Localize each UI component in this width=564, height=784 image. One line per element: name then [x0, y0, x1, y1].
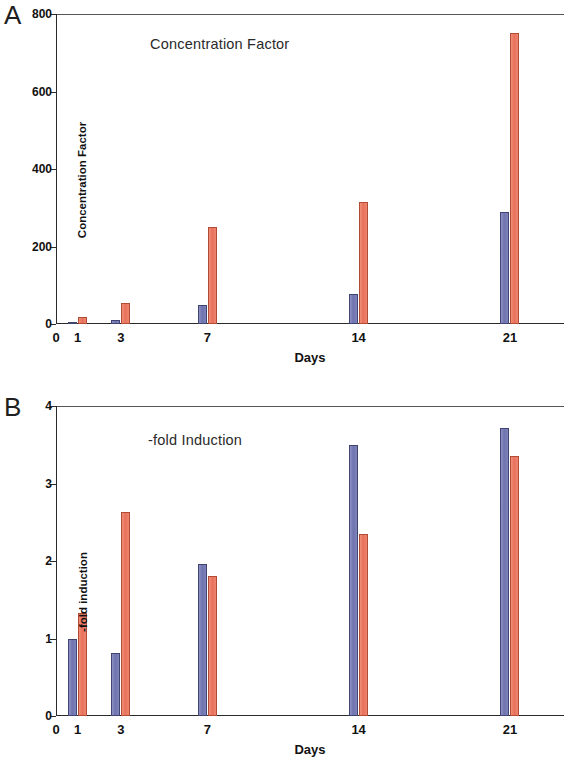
x-tick-label: 14: [351, 722, 365, 737]
bar-red-day-14: [359, 534, 368, 716]
x-tick-label: 7: [204, 330, 211, 345]
panel-b-plot-area: 01234 -fold Induction -fold induction: [56, 406, 564, 716]
bar-blue-day-14: [349, 294, 358, 324]
y-tick-label: 4: [45, 399, 52, 413]
bar-blue-day-21: [500, 212, 509, 324]
x-tick-label: 1: [74, 330, 81, 345]
x-tick-label: 14: [351, 330, 365, 345]
bar-red-day-7: [208, 576, 217, 716]
y-tick-label: 0: [45, 317, 52, 331]
bar-red-day-21: [510, 33, 519, 324]
bar-blue-day-7: [198, 305, 207, 324]
bar-red-day-21: [510, 456, 519, 716]
y-tick-label: 1: [45, 632, 52, 646]
panel-b-letter: B: [4, 394, 22, 420]
x-tick-label: 21: [503, 722, 517, 737]
panel-a-plot-area: 0200400600800 Concentration Factor Conce…: [56, 14, 564, 324]
x-tick-label: 21: [503, 330, 517, 345]
x-tick-label: 0: [52, 330, 59, 345]
panel-a-y-axis-title: Concentration Factor: [76, 110, 88, 250]
bar-blue-day-14: [349, 445, 358, 716]
x-tick-label: 3: [117, 722, 124, 737]
x-tick-label: 3: [117, 330, 124, 345]
y-tick-label: 2: [45, 554, 52, 568]
x-tick-label: 0: [52, 722, 59, 737]
panel-b-y-axis-title: -fold induction: [77, 527, 89, 657]
bar-blue-day-21: [500, 428, 509, 716]
panel-b: B 01234 -fold Induction -fold induction …: [0, 392, 564, 784]
bar-blue-day-7: [198, 564, 207, 716]
panel-a: A 0200400600800 Concentration Factor Con…: [0, 0, 564, 392]
figure-root: A 0200400600800 Concentration Factor Con…: [0, 0, 564, 784]
panel-b-x-tick-labels: 01371421: [56, 716, 564, 738]
panel-b-x-axis-title: Days: [56, 742, 564, 757]
bar-red-day-7: [208, 227, 217, 324]
bar-blue-day-3: [111, 653, 120, 716]
bar-red-day-3: [121, 512, 130, 716]
panel-a-y-axis: [56, 14, 57, 324]
y-tick-label: 200: [32, 240, 52, 254]
y-tick-label: 400: [32, 162, 52, 176]
panel-a-letter: A: [4, 2, 22, 28]
y-tick-label: 0: [45, 709, 52, 723]
x-tick-label: 1: [74, 722, 81, 737]
y-tick-label: 3: [45, 477, 52, 491]
x-tick-label: 7: [204, 722, 211, 737]
bar-blue-day-1: [68, 639, 77, 717]
bar-red-day-14: [359, 202, 368, 324]
panel-a-x-tick-labels: 01371421: [56, 324, 564, 346]
panel-b-top-rule: [56, 406, 564, 407]
panel-a-top-rule: [56, 14, 564, 15]
panel-a-x-axis-title: Days: [56, 350, 564, 365]
y-tick-label: 600: [32, 85, 52, 99]
y-tick-label: 800: [32, 7, 52, 21]
panel-b-y-axis: [56, 406, 57, 716]
panel-b-title: -fold Induction: [148, 432, 242, 448]
bar-red-day-1: [78, 317, 87, 324]
bar-red-day-3: [121, 303, 130, 324]
panel-a-title: Concentration Factor: [150, 36, 289, 52]
